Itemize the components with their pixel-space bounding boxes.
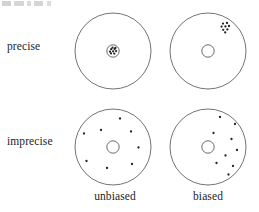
- target-imprecise-unbiased: [70, 102, 156, 192]
- shot-dot: [224, 154, 226, 156]
- target-svg-imprecise-biased: [165, 102, 251, 192]
- shot-dot: [212, 132, 214, 134]
- shot-dot: [220, 25, 222, 27]
- shot-dot: [222, 22, 224, 24]
- shot-dot: [222, 29, 224, 31]
- shot-dot: [119, 117, 121, 119]
- target-svg-precise-unbiased: [70, 6, 156, 96]
- shot-dot: [113, 52, 115, 54]
- shot-dot: [112, 50, 114, 52]
- target-precise-unbiased: [70, 6, 156, 96]
- shot-dot: [224, 31, 226, 33]
- bullseye-ring-icon: [202, 45, 214, 57]
- shot-dot: [236, 149, 238, 151]
- shot-dot-group: [220, 22, 230, 34]
- shot-dot: [100, 129, 102, 131]
- shot-dot: [234, 123, 236, 125]
- shot-dot: [226, 28, 228, 30]
- target-svg-precise-biased: [165, 6, 251, 96]
- precision-bias-figure: precise imprecise unbiased biased: [0, 0, 259, 212]
- shot-dot: [114, 47, 116, 49]
- target-precise-biased: [165, 6, 251, 96]
- row-label-precise: precise: [0, 40, 70, 53]
- shot-dot: [110, 52, 112, 54]
- shot-dot: [137, 146, 139, 148]
- shot-dot: [224, 25, 226, 27]
- shot-dot: [131, 163, 133, 165]
- shot-dot: [130, 130, 132, 132]
- shot-dot: [215, 162, 217, 164]
- row-label-imprecise: imprecise: [0, 135, 70, 148]
- shot-dot: [83, 132, 85, 134]
- shot-dot: [232, 165, 234, 167]
- shot-dot: [219, 116, 221, 118]
- shot-dot: [85, 160, 87, 162]
- shot-dot: [111, 46, 113, 48]
- shot-dot: [227, 173, 229, 175]
- shot-dot: [106, 167, 108, 169]
- shot-dot-group: [212, 116, 238, 176]
- scan-artifact: [2, 1, 54, 6]
- bullseye-ring-icon: [107, 141, 119, 153]
- shot-dot: [115, 50, 117, 52]
- bullseye-ring-icon: [202, 141, 214, 153]
- target-imprecise-biased: [165, 102, 251, 192]
- shot-dot: [230, 138, 232, 140]
- target-svg-imprecise-unbiased: [70, 102, 156, 192]
- shot-dot: [226, 22, 228, 24]
- shot-dot: [228, 25, 230, 27]
